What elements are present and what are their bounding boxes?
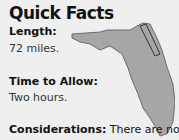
length-value: 72 miles. — [9, 42, 59, 55]
time-value: Two hours. — [9, 91, 68, 104]
considerations-row: Considerations: There are no — [9, 123, 179, 136]
time-label: Time to Allow: — [9, 75, 98, 88]
considerations-value: There are no — [110, 123, 179, 136]
considerations-label: Considerations: — [9, 123, 106, 136]
section-title: Quick Facts — [9, 3, 114, 23]
length-label: Length: — [9, 25, 57, 38]
